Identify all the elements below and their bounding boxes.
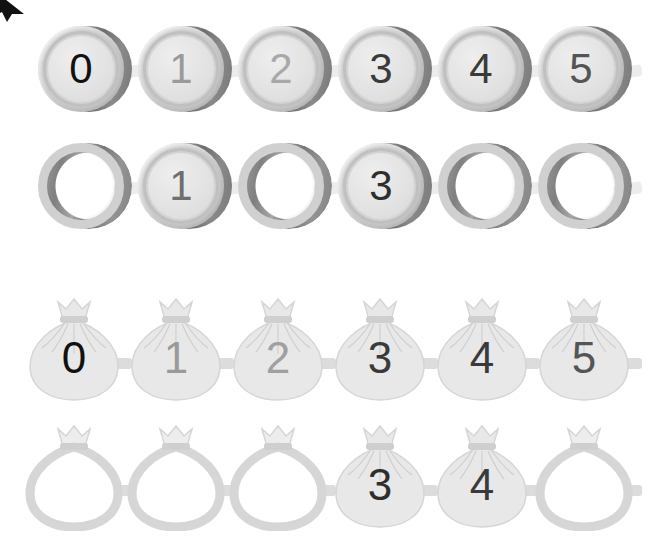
money-bag-slot-5[interactable]: 5 xyxy=(532,296,636,404)
bag-digit: 2 xyxy=(226,336,330,380)
coin-digit: 5 xyxy=(569,48,592,90)
coin-face: 1 xyxy=(148,36,214,102)
coin-hollow[interactable] xyxy=(238,143,324,229)
money-bag-filled[interactable]: 4 xyxy=(430,423,534,531)
bag-tie xyxy=(468,443,496,450)
money-bag-slot-3[interactable]: 3 xyxy=(328,423,432,531)
money-bag-slot-4[interactable]: 4 xyxy=(430,423,534,531)
coin-filled[interactable]: 4 xyxy=(438,26,524,112)
coin-rim xyxy=(238,143,324,229)
money-bag-filled[interactable]: 3 xyxy=(328,296,432,404)
bag-digit: 1 xyxy=(124,336,228,380)
bag-tie xyxy=(570,443,598,450)
coin-slot-0[interactable]: 0 xyxy=(36,24,132,116)
coin-filled[interactable]: 2 xyxy=(238,26,324,112)
coin-slot-1[interactable]: 1 xyxy=(136,141,232,233)
bag-tie xyxy=(264,316,292,323)
bag-tie xyxy=(468,316,496,323)
coin-face: 0 xyxy=(48,36,114,102)
bag-digit: 5 xyxy=(532,336,636,380)
money-bag-slot-0[interactable]: 0 xyxy=(22,296,126,404)
coin-face: 2 xyxy=(248,36,314,102)
bag-tie xyxy=(60,316,88,323)
bag-crown xyxy=(160,426,192,445)
coin-filled[interactable]: 1 xyxy=(138,143,224,229)
coin-digit: 3 xyxy=(369,165,392,207)
bag-crown xyxy=(160,299,192,318)
coin-face: 1 xyxy=(148,153,214,219)
coin-digit: 0 xyxy=(69,48,92,90)
mouse-cursor-arrow-icon xyxy=(0,0,28,22)
bag-crown xyxy=(262,299,294,318)
bag-tie xyxy=(162,443,190,450)
money-bag-slot-2[interactable] xyxy=(226,423,330,531)
bag-digit: 3 xyxy=(328,463,432,507)
money-bag-filled[interactable]: 2 xyxy=(226,296,330,404)
bag-digit: 4 xyxy=(430,463,534,507)
bag-tie xyxy=(570,316,598,323)
coin-face: 3 xyxy=(348,36,414,102)
coin-hollow[interactable] xyxy=(438,143,524,229)
coin-slot-3[interactable]: 3 xyxy=(336,24,432,116)
bag-digit: 0 xyxy=(22,336,126,380)
bag-crown xyxy=(58,299,90,318)
bag-crown xyxy=(262,426,294,445)
coin-rim xyxy=(538,143,624,229)
coin-filled[interactable]: 3 xyxy=(338,143,424,229)
coin-face: 4 xyxy=(448,36,514,102)
coin-rim xyxy=(438,143,524,229)
coin-slot-2[interactable] xyxy=(236,141,332,233)
bag-crown xyxy=(364,426,396,445)
money-bag-slot-2[interactable]: 2 xyxy=(226,296,330,404)
coin-filled[interactable]: 1 xyxy=(138,26,224,112)
bag-tie xyxy=(60,443,88,450)
money-bag-filled[interactable]: 5 xyxy=(532,296,636,404)
bag-crown xyxy=(466,426,498,445)
bag-tie xyxy=(162,316,190,323)
coin-filled[interactable]: 5 xyxy=(538,26,624,112)
bag-digit: 3 xyxy=(328,336,432,380)
coin-filled[interactable]: 0 xyxy=(38,26,124,112)
bag-crown xyxy=(466,299,498,318)
coin-slot-0[interactable] xyxy=(36,141,132,233)
money-bag-slot-1[interactable] xyxy=(124,423,228,531)
coin-slot-1[interactable]: 1 xyxy=(136,24,232,116)
worksheet-canvas: 0123451301234534 xyxy=(0,0,662,550)
money-bag-hollow[interactable] xyxy=(226,423,330,531)
money-bag-filled[interactable]: 1 xyxy=(124,296,228,404)
bag-crown xyxy=(568,426,600,445)
coin-slot-5[interactable]: 5 xyxy=(536,24,632,116)
coin-digit: 3 xyxy=(369,48,392,90)
bag-digit: 4 xyxy=(430,336,534,380)
coin-digit: 1 xyxy=(169,165,192,207)
coin-slot-2[interactable]: 2 xyxy=(236,24,332,116)
coin-hollow[interactable] xyxy=(538,143,624,229)
bag-crown xyxy=(364,299,396,318)
money-bag-slot-0[interactable] xyxy=(22,423,126,531)
coin-slot-5[interactable] xyxy=(536,141,632,233)
coin-filled[interactable]: 3 xyxy=(338,26,424,112)
bag-body xyxy=(540,447,628,527)
money-bag-slot-1[interactable]: 1 xyxy=(124,296,228,404)
coin-face: 3 xyxy=(348,153,414,219)
money-bag-slot-3[interactable]: 3 xyxy=(328,296,432,404)
money-bag-hollow[interactable] xyxy=(532,423,636,531)
bag-body xyxy=(132,447,220,527)
money-bag-filled[interactable]: 3 xyxy=(328,423,432,531)
money-bag-hollow[interactable] xyxy=(22,423,126,531)
coin-digit: 4 xyxy=(469,48,492,90)
money-bag-slot-5[interactable] xyxy=(532,423,636,531)
money-bag-filled[interactable]: 4 xyxy=(430,296,534,404)
coin-slot-4[interactable]: 4 xyxy=(436,24,532,116)
coin-digit: 2 xyxy=(269,48,292,90)
coin-slot-4[interactable] xyxy=(436,141,532,233)
bag-crown xyxy=(568,299,600,318)
coin-digit: 1 xyxy=(169,48,192,90)
money-bag-hollow[interactable] xyxy=(124,423,228,531)
bag-tie xyxy=(366,443,394,450)
money-bag-filled[interactable]: 0 xyxy=(22,296,126,404)
coin-slot-3[interactable]: 3 xyxy=(336,141,432,233)
coin-rim xyxy=(38,143,124,229)
coin-hollow[interactable] xyxy=(38,143,124,229)
money-bag-slot-4[interactable]: 4 xyxy=(430,296,534,404)
